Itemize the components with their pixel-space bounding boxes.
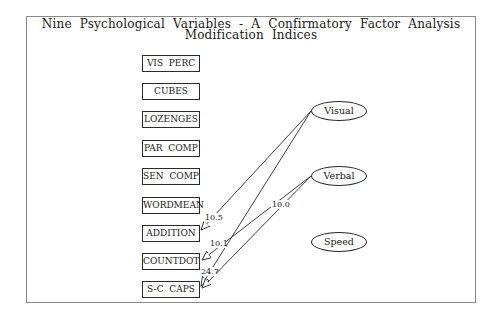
factor-speed[interactable]: Speed xyxy=(311,232,367,252)
path-visual-sccaps xyxy=(201,111,311,286)
indicator-vis-perc[interactable]: VIS PERC xyxy=(142,55,200,72)
indicator-sc-caps[interactable]: S-C CAPS xyxy=(142,281,200,298)
indicator-sen-comp[interactable]: SEN COMP xyxy=(142,168,200,185)
indicator-wordmean[interactable]: WORDMEAN xyxy=(142,197,200,214)
index-visual-sccaps: 24.7 xyxy=(201,267,219,276)
index-verbal-countdot: 10.1 xyxy=(210,239,228,248)
path-arrows: 10.5 10.1 24.7 10.0 xyxy=(0,0,501,321)
factor-verbal[interactable]: Verbal xyxy=(311,166,367,186)
indicator-countdot[interactable]: COUNTDOT xyxy=(142,253,200,270)
indicator-cubes[interactable]: CUBES xyxy=(142,83,200,100)
index-visual-addition: 10.5 xyxy=(205,213,223,222)
indicator-par-comp[interactable]: PAR COMP xyxy=(142,140,200,157)
indicator-lozenges[interactable]: LOZENGES xyxy=(142,111,200,128)
indicator-addition[interactable]: ADDITION xyxy=(142,225,200,242)
factor-visual[interactable]: Visual xyxy=(311,101,367,121)
index-verbal-sccaps: 10.0 xyxy=(272,200,290,209)
